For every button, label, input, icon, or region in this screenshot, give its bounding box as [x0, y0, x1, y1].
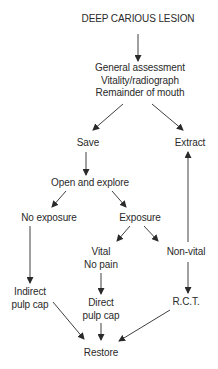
node-vital-no-pain: Vital No pain [84, 246, 118, 271]
node-rct: R.C.T. [172, 296, 199, 309]
node-label: Restore [84, 347, 118, 360]
node-label: Exposure [119, 212, 160, 225]
node-label: DEEP CARIOUS LESION [82, 13, 195, 26]
node-no-exposure: No exposure [21, 212, 77, 225]
node-label: Non-vital [167, 246, 206, 259]
edge-indirect-to-restore [53, 302, 84, 339]
node-non-vital: Non-vital [167, 246, 206, 259]
node-label: R.C.T. [172, 296, 199, 309]
node-open-and-explore: Open and explore [51, 177, 129, 190]
edge-exposure-to-vital [117, 226, 130, 241]
node-direct-pulp-cap: Direct pulp cap [82, 297, 119, 322]
node-label: No pain [84, 259, 118, 272]
node-save: Save [77, 137, 99, 150]
edge-open-to-no-exposure [52, 191, 66, 207]
node-label: Vitality/radiograph [95, 75, 185, 88]
edge-assessment-to-extract [152, 104, 183, 130]
node-extract: Extract [175, 137, 205, 150]
node-label: Remainder of mouth [95, 87, 185, 100]
node-indirect-pulp-cap: Indirect pulp cap [11, 286, 48, 311]
node-label: Extract [175, 137, 205, 150]
node-label: pulp cap [11, 299, 48, 312]
node-restore: Restore [84, 347, 118, 360]
node-label: Direct [82, 297, 119, 310]
node-label: Vital [84, 246, 118, 259]
node-label: pulp cap [82, 310, 119, 323]
node-label: General assessment [95, 62, 185, 75]
node-label: Save [77, 137, 99, 150]
edge-open-to-exposure [112, 191, 126, 207]
node-deep-carious-lesion: DEEP CARIOUS LESION [82, 13, 195, 26]
node-label: No exposure [21, 212, 77, 225]
node-label: Open and explore [51, 177, 129, 190]
edge-assessment-to-save [93, 104, 123, 130]
node-label: Indirect [11, 286, 48, 299]
edge-rct-to-restore [119, 310, 170, 341]
node-exposure: Exposure [119, 212, 160, 225]
node-general-assessment: General assessment Vitality/radiograph R… [95, 62, 185, 100]
edge-exposure-to-non-vital [144, 226, 158, 241]
